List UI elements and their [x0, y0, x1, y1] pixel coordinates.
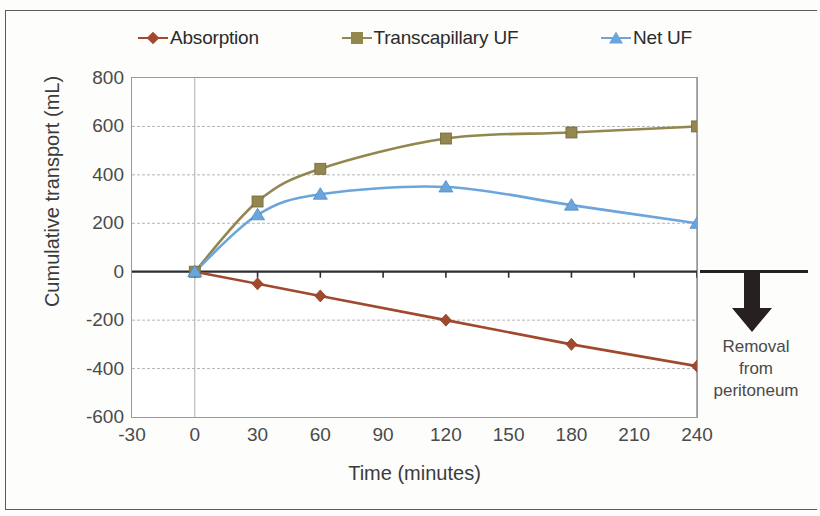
- y-tick-label: 400: [64, 164, 124, 186]
- x-tick-label: 180: [541, 424, 601, 446]
- removal-annotation: Removal from peritoneum: [698, 262, 814, 422]
- x-tick-label: 90: [353, 424, 413, 446]
- diamond-marker-icon: [138, 30, 168, 46]
- y-axis-title: Cumulative transport (mL): [41, 32, 64, 352]
- y-tick-label: -200: [64, 309, 124, 331]
- chart-legend: Absorption Transcapillary UF Net UF: [130, 22, 700, 54]
- x-axis-tick-labels: -300306090120150180210240: [131, 424, 698, 450]
- figure-canvas: Absorption Transcapillary UF Net UF 8006…: [0, 0, 820, 516]
- legend-symbol-transcapillary-uf: [351, 32, 363, 44]
- legend-label-net-uf: Net UF: [633, 27, 692, 49]
- x-tick-label: 0: [165, 424, 225, 446]
- data-point-diamond: [252, 278, 263, 290]
- square-marker-icon: [342, 30, 372, 46]
- y-tick-label: 800: [64, 67, 124, 89]
- data-point-triangle: [251, 208, 265, 220]
- y-axis-tick-labels: 8006004002000-200-400-600: [62, 77, 124, 418]
- x-tick-label: 60: [290, 424, 350, 446]
- annotation-line-3: peritoneum: [698, 380, 814, 402]
- x-tick-label: 210: [604, 424, 664, 446]
- annotation-line-2: from: [698, 358, 814, 380]
- x-tick-label: 30: [228, 424, 288, 446]
- data-point-square: [252, 196, 263, 207]
- series-line-transcapillary-uf: [195, 126, 697, 271]
- x-tick-label: -30: [102, 424, 162, 446]
- x-tick-label: 120: [416, 424, 476, 446]
- x-tick-label: 240: [667, 424, 727, 446]
- plot-area: [131, 77, 698, 418]
- legend-item-absorption: Absorption: [138, 27, 259, 49]
- legend-item-transcapillary-uf: Transcapillary UF: [342, 27, 519, 49]
- y-tick-label: -400: [64, 358, 124, 380]
- triangle-marker-icon: [601, 30, 631, 46]
- legend-label-transcapillary-uf: Transcapillary UF: [374, 27, 519, 49]
- data-point-diamond: [440, 314, 451, 326]
- data-point-square: [440, 133, 451, 144]
- data-point-diamond: [566, 338, 577, 350]
- data-point-square: [566, 127, 577, 138]
- data-point-diamond: [315, 290, 326, 302]
- data-point-square: [692, 121, 698, 132]
- data-point-square: [315, 163, 326, 174]
- plot-svg: [132, 78, 697, 417]
- x-axis-title: Time (minutes): [131, 462, 698, 485]
- series-line-net-uf: [195, 187, 697, 272]
- legend-label-absorption: Absorption: [170, 27, 259, 49]
- annotation-line-1: Removal: [698, 336, 814, 358]
- legend-symbol-net-uf: [609, 31, 623, 43]
- legend-item-net-uf: Net UF: [601, 27, 692, 49]
- down-arrow-icon: [730, 272, 774, 334]
- y-tick-label: 600: [64, 115, 124, 137]
- y-tick-label: 200: [64, 212, 124, 234]
- data-point-diamond: [692, 360, 698, 372]
- y-tick-label: 0: [64, 261, 124, 283]
- legend-symbol-absorption: [147, 32, 160, 45]
- annotation-text: Removal from peritoneum: [698, 336, 814, 402]
- x-tick-label: 150: [479, 424, 539, 446]
